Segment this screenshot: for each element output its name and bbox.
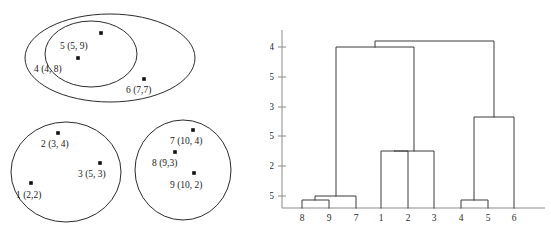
top-inner-ellipse (45, 21, 137, 87)
point-9-marker (192, 171, 196, 175)
point-label-7: 7 (10, 4) (170, 136, 202, 147)
cluster-scatter-panel: 1 (2,2) 2 (3, 4) 3 (5, 3) 4 (4, 8) 5 (5,… (0, 0, 270, 232)
dendrogram-tree (302, 41, 514, 208)
cluster-scatter-svg: 1 (2,2) 2 (3, 4) 3 (5, 3) 4 (4, 8) 5 (5,… (0, 0, 270, 232)
link-merge-1-2 (381, 151, 408, 208)
link-merge-12-3 (394, 151, 434, 208)
link-merge-45-6 (474, 117, 514, 208)
y-tick-label-1-5: 1.5 (270, 191, 274, 201)
y-axis-tick-labels: 4 3.5 3 2.5 2 1.5 (270, 42, 274, 201)
point-4-marker (76, 56, 80, 60)
bottom-right-circle (135, 120, 231, 220)
point-label-3: 3 (5, 3) (78, 169, 106, 180)
dendrogram-panel: 4 3.5 3 2.5 2 1.5 (270, 0, 551, 232)
link-merge-89-7 (315, 196, 356, 208)
point-8-marker (173, 150, 177, 154)
point-1-marker (29, 181, 33, 185)
point-7-marker (191, 128, 195, 132)
top-outer-ellipse (25, 14, 195, 102)
y-tick-label-4: 4 (270, 42, 274, 52)
point-label-6: 6 (7,7) (126, 85, 151, 96)
point-label-2: 2 (3, 4) (41, 139, 69, 150)
point-label-5: 5 (5, 9) (60, 41, 88, 52)
y-tick-label-3: 3 (270, 102, 274, 112)
point-label-1: 1 (2,2) (16, 190, 41, 201)
figure-container: 1 (2,2) 2 (3, 4) 3 (5, 3) 4 (4, 8) 5 (5,… (0, 0, 551, 232)
dendrogram-leaf-labels: 8 9 7 1 2 3 4 5 6 (300, 213, 517, 223)
point-label-8: 8 (9,3) (152, 158, 177, 169)
dendrogram-axes (278, 30, 545, 208)
y-tick-label-2: 2 (270, 161, 274, 171)
point-6-marker (142, 77, 146, 81)
y-tick-label-2-5: 2.5 (270, 131, 274, 141)
point-label-4: 4 (4, 8) (34, 64, 62, 75)
leaf-label-3: 3 (432, 213, 437, 223)
link-merge-8-9 (302, 200, 329, 208)
leaf-label-2: 2 (406, 213, 411, 223)
leaf-label-4: 4 (459, 213, 464, 223)
link-merge-897-123 (336, 47, 414, 196)
point-3-marker (98, 161, 102, 165)
leaf-label-1: 1 (379, 213, 384, 223)
link-merge-root (375, 41, 494, 117)
point-5-marker (99, 31, 103, 35)
y-tick-label-3-5: 3.5 (270, 72, 274, 82)
leaf-label-7: 7 (354, 213, 359, 223)
point-label-9: 9 (10, 2) (170, 180, 202, 191)
leaf-label-9: 9 (327, 213, 332, 223)
dendrogram-svg: 4 3.5 3 2.5 2 1.5 (270, 0, 551, 232)
leaf-label-5: 5 (486, 213, 491, 223)
leaf-label-8: 8 (300, 213, 305, 223)
group-outlines (11, 14, 231, 222)
leaf-label-6: 6 (512, 213, 517, 223)
link-merge-4-5 (461, 200, 488, 208)
point-2-marker (56, 131, 60, 135)
